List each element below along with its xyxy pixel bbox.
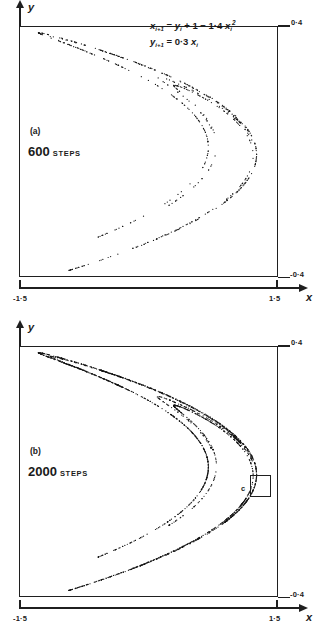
tick-ymax-a bbox=[278, 25, 290, 27]
equation-block: xi+1 = yi + 1 − 1·4 xi2 yi+1 = 0·3 xi bbox=[150, 16, 236, 50]
steps-count-b: 2000 bbox=[28, 464, 57, 479]
y-axis-arrow-icon-b bbox=[16, 320, 24, 328]
y-min-tick-label-a: -0·4 bbox=[290, 270, 304, 279]
panel-b: y c x -1·5 1·5 0·4 -0·4 (b) 2000STEPS bbox=[0, 320, 323, 638]
x-axis-label-b: x bbox=[306, 611, 312, 623]
x-axis-label-a: x bbox=[306, 291, 312, 303]
magnification-box-label: c bbox=[241, 484, 245, 493]
y-axis-arrow-icon-a bbox=[16, 0, 24, 8]
x-max-tick-label-a: 1·5 bbox=[269, 294, 280, 303]
magnification-box[interactable] bbox=[250, 475, 271, 497]
tick-ymax-b bbox=[278, 345, 290, 347]
equation-line-2: yi+1 = 0·3 xi bbox=[150, 35, 236, 51]
x-axis-line-a bbox=[19, 287, 301, 289]
x-min-tick-label-a: -1·5 bbox=[13, 294, 27, 303]
tick-ymin-b bbox=[278, 597, 290, 599]
steps-label-b: 2000STEPS bbox=[28, 464, 88, 479]
steps-label-a: 600STEPS bbox=[28, 144, 81, 159]
x-min-tick-label-b: -1·5 bbox=[13, 614, 27, 623]
tick-ymin-a bbox=[278, 277, 290, 279]
steps-unit-a: STEPS bbox=[53, 149, 81, 158]
x-axis-line-b bbox=[19, 607, 301, 609]
equation-line-1: xi+1 = yi + 1 − 1·4 xi2 bbox=[150, 16, 236, 35]
panel-a: y x -1·5 1·5 0·4 -0·4 xi+1 = yi + 1 − 1·… bbox=[0, 0, 323, 318]
y-min-tick-label-b: -0·4 bbox=[290, 590, 304, 599]
steps-count-a: 600 bbox=[28, 144, 50, 159]
y-axis-label-b: y bbox=[28, 321, 34, 333]
y-max-tick-label-b: 0·4 bbox=[291, 338, 302, 347]
y-max-tick-label-a: 0·4 bbox=[291, 18, 302, 27]
steps-unit-b: STEPS bbox=[60, 469, 88, 478]
panel-tag-a: (a) bbox=[30, 126, 40, 136]
y-axis-label-a: y bbox=[28, 1, 34, 13]
panel-tag-b: (b) bbox=[30, 446, 41, 456]
x-max-tick-label-b: 1·5 bbox=[269, 614, 280, 623]
